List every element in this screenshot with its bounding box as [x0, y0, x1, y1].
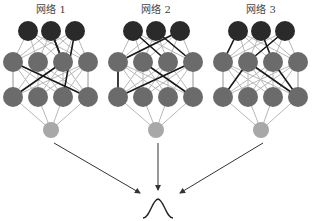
neuron-node: [275, 21, 295, 41]
neuron-node: [158, 87, 178, 107]
neuron-node: [78, 87, 98, 107]
network-1-label: 网络 1: [21, 1, 81, 16]
neuron-node: [53, 87, 73, 107]
neuron-node: [133, 52, 153, 72]
network-2: [108, 21, 203, 138]
neuron-node: [183, 52, 203, 72]
arrow-1: [54, 143, 140, 193]
neuron-node: [53, 52, 73, 72]
neuron-node: [213, 52, 233, 72]
neuron-node: [3, 52, 23, 72]
output-node: [253, 122, 269, 138]
neuron-node: [65, 21, 85, 41]
arrow-3: [180, 143, 263, 193]
neuron-node: [263, 87, 283, 107]
neuron-node: [288, 87, 308, 107]
network-1: [3, 21, 98, 138]
neuron-node: [170, 21, 190, 41]
neuron-node: [263, 52, 283, 72]
neuron-node: [238, 87, 258, 107]
ensemble-diagram: [0, 0, 317, 221]
neuron-node: [3, 87, 23, 107]
neuron-node: [251, 21, 271, 41]
neuron-node: [78, 52, 98, 72]
neuron-node: [146, 21, 166, 41]
output-node: [43, 122, 59, 138]
neuron-node: [41, 21, 61, 41]
neuron-node: [158, 52, 178, 72]
network-3: [213, 21, 308, 138]
neuron-node: [228, 21, 248, 41]
neuron-node: [288, 52, 308, 72]
network-2-label: 网络 2: [126, 1, 186, 16]
neuron-node: [108, 87, 128, 107]
neuron-node: [28, 52, 48, 72]
network-3-label: 网络 3: [231, 1, 291, 16]
neuron-node: [123, 21, 143, 41]
neuron-node: [28, 87, 48, 107]
neuron-node: [133, 87, 153, 107]
neuron-node: [183, 87, 203, 107]
neuron-node: [238, 52, 258, 72]
neuron-node: [108, 52, 128, 72]
neuron-node: [213, 87, 233, 107]
output-node: [148, 122, 164, 138]
gaussian-curve-icon: [143, 199, 173, 218]
neuron-node: [18, 21, 38, 41]
